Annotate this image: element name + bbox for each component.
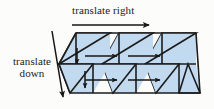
translate-right-label: translate right bbox=[72, 4, 134, 16]
translate-down-label-line1: translate bbox=[6, 55, 58, 67]
translate-down-label: translate down bbox=[6, 55, 58, 79]
triangle-tile-r2c2-mirror bbox=[102, 64, 153, 93]
translate-down-label-line2: down bbox=[6, 67, 58, 79]
tessellation-translation-figure: translate right translate down bbox=[0, 0, 214, 109]
